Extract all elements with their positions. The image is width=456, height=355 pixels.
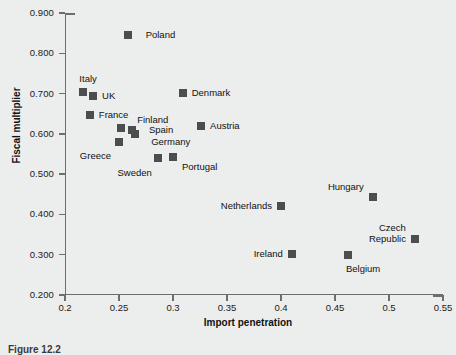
y-tick-mark (59, 133, 65, 135)
y-tick-label: 0.700 (0, 88, 54, 99)
data-point-label: UK (102, 90, 115, 101)
x-tick-label: 0.3 (153, 302, 193, 313)
y-tick-label: 0.600 (0, 128, 54, 139)
data-point-label: Netherlands (0, 200, 272, 211)
data-point-label: Belgium (346, 263, 380, 274)
data-point-label: Poland (146, 29, 176, 40)
data-point-marker[interactable] (131, 130, 139, 138)
x-tick-label: 0.35 (207, 302, 247, 313)
data-point-label: Ireland (0, 248, 283, 259)
x-tick-label: 0.4 (261, 302, 301, 313)
y-tick-mark (59, 93, 65, 95)
x-tick-mark (118, 295, 120, 301)
data-point-label: Germany (151, 136, 190, 147)
data-point-marker[interactable] (277, 202, 285, 210)
x-tick-mark (388, 295, 390, 301)
x-tick-label: 0.45 (315, 302, 355, 313)
data-point-marker[interactable] (288, 250, 296, 258)
data-point-marker[interactable] (411, 235, 419, 243)
data-point-marker[interactable] (89, 92, 97, 100)
data-point-label: Austria (210, 120, 240, 131)
data-point-label: Portugal (182, 161, 217, 172)
scatter-chart-figure: 0.2000.3000.4000.5000.6000.7000.8000.900… (0, 0, 456, 355)
y-axis-top-stub (65, 13, 75, 15)
x-tick-mark (226, 295, 228, 301)
y-tick-mark (59, 53, 65, 55)
y-axis-title: Fiscal multiplier (11, 66, 22, 186)
data-point-label: Czech Republic (0, 222, 406, 244)
data-point-marker[interactable] (86, 111, 94, 119)
data-point-marker[interactable] (79, 88, 87, 96)
x-axis-title: Import penetration (0, 317, 456, 328)
data-point-marker[interactable] (117, 124, 125, 132)
y-tick-label: 0.200 (0, 289, 54, 300)
data-point-label: France (99, 109, 129, 120)
y-tick-mark (59, 12, 65, 14)
data-point-marker[interactable] (169, 153, 177, 161)
data-point-label: Spain (149, 124, 173, 135)
data-point-marker[interactable] (154, 154, 162, 162)
x-tick-label: 0.25 (99, 302, 139, 313)
y-tick-label: 0.800 (0, 47, 54, 58)
data-point-label: Hungary (0, 181, 364, 192)
x-tick-label: 0.55 (423, 302, 456, 313)
y-tick-mark (59, 214, 65, 216)
data-point-label: Sweden (0, 167, 152, 178)
x-tick-mark (442, 295, 444, 301)
data-point-marker[interactable] (179, 89, 187, 97)
data-point-marker[interactable] (369, 193, 377, 201)
x-tick-label: 0.2 (45, 302, 85, 313)
data-point-label: Denmark (192, 87, 231, 98)
data-point-marker[interactable] (344, 251, 352, 259)
x-tick-mark (64, 295, 66, 301)
x-tick-label: 0.5 (369, 302, 409, 313)
data-point-label: Italy (79, 73, 96, 84)
data-point-marker[interactable] (124, 31, 132, 39)
x-tick-mark (172, 295, 174, 301)
data-point-marker[interactable] (115, 138, 123, 146)
x-tick-mark (280, 295, 282, 301)
figure-caption: Figure 12.2 (8, 344, 61, 355)
data-point-marker[interactable] (197, 122, 205, 130)
y-tick-label: 0.900 (0, 7, 54, 18)
x-tick-mark (334, 295, 336, 301)
